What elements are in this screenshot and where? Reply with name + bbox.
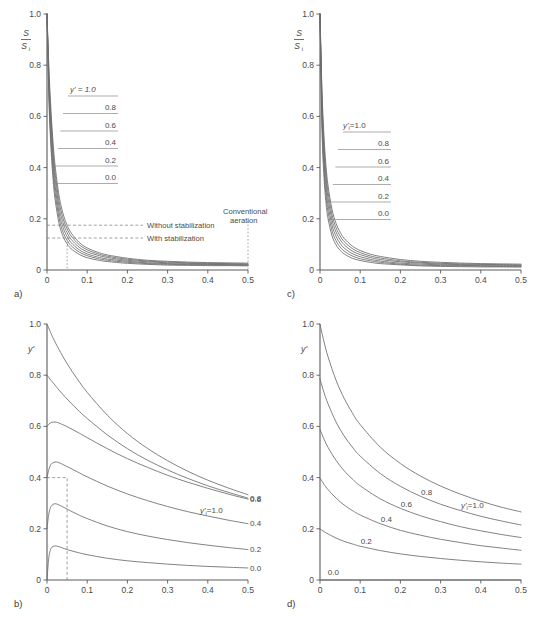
panel-b-x-tick-labels: 00.10.20.30.40.5	[45, 585, 255, 595]
y-axis-denominator: S	[294, 41, 300, 51]
legend-value-label: 0.6	[105, 121, 117, 130]
y-tick-label: 0.6	[29, 421, 41, 431]
panel-c-letter: c)	[287, 288, 295, 299]
panel-b-y-axis-label: y'	[27, 344, 35, 354]
legend-value-label: 0.2	[105, 156, 117, 165]
data-curve	[320, 14, 521, 266]
data-curve	[320, 429, 521, 537]
legend-value-label: 0.0	[250, 564, 262, 573]
panel-b-y-tick-labels: 00.20.40.60.81.0	[29, 319, 41, 585]
x-tick-label: 0.1	[81, 275, 93, 285]
x-tick-label: 0.1	[354, 585, 366, 595]
legend-value-label: 0.8	[421, 488, 433, 497]
panel-b-legend: y'i=1.00.80.60.40.20.0	[199, 494, 262, 573]
x-tick-label: 0.2	[394, 585, 406, 595]
data-curve	[320, 529, 521, 564]
panel-a-legend: y' = 1.00.80.60.40.20.0	[53, 85, 118, 184]
x-tick-label: 0.2	[121, 275, 133, 285]
panel-c-y-tick-labels: 00.20.40.60.81.0	[302, 9, 314, 275]
panel-c-axes	[320, 14, 521, 270]
data-curve	[320, 14, 521, 266]
x-tick-label: 0.5	[242, 275, 254, 285]
annotation-conventional-line2: aeration	[230, 216, 257, 225]
x-tick-label: 0.4	[475, 585, 487, 595]
x-tick-label: 0.3	[162, 585, 174, 595]
legend-value-label: 0.4	[105, 138, 117, 147]
y-tick-label: 0.8	[302, 60, 314, 70]
y-tick-label: 0.8	[29, 60, 41, 70]
data-curve	[320, 14, 521, 265]
data-curve	[320, 14, 521, 265]
y-tick-label: 0.4	[302, 473, 314, 483]
x-tick-label: 0	[45, 585, 50, 595]
x-tick-label: 0.5	[515, 585, 527, 595]
legend-value-label: 0.4	[250, 519, 262, 528]
panel-c-plot: 00.20.40.60.81.0 00.10.20.30.40.5 y'i=1.…	[273, 0, 546, 310]
panel-a-axes	[47, 14, 248, 270]
x-tick-label: 0	[45, 275, 50, 285]
panel-d-legend: y'i=1.00.80.60.40.20.0	[328, 488, 484, 577]
panel-c: 00.20.40.60.81.0 00.10.20.30.40.5 y'i=1.…	[273, 0, 546, 310]
x-tick-label: 0.5	[515, 275, 527, 285]
y-tick-label: 0.4	[29, 163, 41, 173]
legend-value-label: 0.2	[378, 192, 390, 201]
annotation-conventional-line1: Conventional	[223, 207, 268, 216]
panel-c-x-tick-labels: 00.10.20.30.40.5	[318, 275, 528, 285]
legend-head: y'i=1.0	[199, 506, 223, 516]
legend-value-label: 0.6	[378, 157, 390, 166]
legend-value-label: 0.0	[328, 568, 340, 577]
data-curve	[320, 14, 521, 264]
x-tick-label: 0.2	[121, 585, 133, 595]
y-tick-label: 0.2	[302, 524, 314, 534]
y-tick-label: 0.2	[302, 214, 314, 224]
x-tick-label: 0.3	[435, 275, 447, 285]
y-tick-label: 1.0	[302, 319, 314, 329]
panel-b-letter: b)	[14, 598, 22, 609]
x-tick-label: 0	[318, 275, 323, 285]
legend-value-label: 0.0	[378, 209, 390, 218]
panel-d-y-tick-labels: 00.20.40.60.81.0	[302, 319, 314, 585]
legend-value-label: 0.8	[378, 139, 390, 148]
legend-value-label: 0.6	[401, 500, 413, 509]
legend-value-label: 0.4	[381, 515, 393, 524]
y-tick-label: 1.0	[302, 9, 314, 19]
panel-a: 00.20.40.60.81.0 00.10.20.30.40.5 Withou…	[0, 0, 273, 310]
x-tick-label: 0.3	[162, 275, 174, 285]
panel-a-y-tick-labels: 00.20.40.60.81.0	[29, 9, 41, 275]
x-tick-label: 0.4	[202, 275, 214, 285]
legend-head: y'i=1.0	[460, 501, 484, 511]
x-tick-label: 0.1	[354, 275, 366, 285]
panel-d-curves	[320, 324, 521, 580]
annotation-label: With stabilization	[147, 234, 204, 243]
legend-value-label: 0.6	[250, 495, 262, 504]
panel-b-axes	[47, 324, 248, 580]
legend-value-label: 0.2	[250, 545, 262, 554]
panel-d-plot: 00.20.40.60.81.0 00.10.20.30.40.5 y'i=1.…	[273, 310, 546, 620]
figure-root: 00.20.40.60.81.0 00.10.20.30.40.5 Withou…	[0, 0, 546, 620]
panel-b-curves	[47, 324, 248, 580]
y-tick-label: 0	[309, 575, 314, 585]
y-tick-label: 0	[36, 575, 41, 585]
panel-c-curves	[320, 14, 521, 267]
y-tick-label: 0.6	[302, 111, 314, 121]
data-curve	[320, 379, 521, 525]
data-curve	[47, 375, 248, 498]
x-tick-label: 0.4	[202, 585, 214, 595]
y-tick-label: 0	[309, 265, 314, 275]
data-curve	[320, 14, 521, 267]
x-tick-label: 0.5	[242, 585, 254, 595]
panel-b-plot: 00.20.40.60.81.0 00.10.20.30.40.5 y'i=1.…	[0, 310, 273, 620]
panel-d-axes	[320, 324, 521, 580]
y-tick-label: 0.2	[29, 524, 41, 534]
x-tick-label: 0.4	[475, 275, 487, 285]
panel-a-y-axis-label: S S i	[21, 28, 31, 52]
panel-c-legend: y'i=1.00.80.60.40.20.0	[328, 121, 391, 220]
panel-c-y-axis-label: S S i	[294, 28, 304, 52]
y-axis-denominator-subscript: i	[302, 46, 303, 52]
panel-d-x-tick-labels: 00.10.20.30.40.5	[318, 585, 528, 595]
legend-value-label: 0.2	[361, 537, 373, 546]
panel-d-letter: d)	[287, 598, 295, 609]
panel-b-annotations	[47, 478, 67, 580]
y-axis-numerator: S	[296, 28, 302, 38]
y-tick-label: 0	[36, 265, 41, 275]
